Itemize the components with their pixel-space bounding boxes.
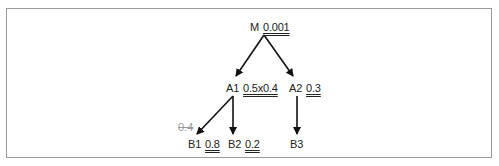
node-m: M0.001: [250, 21, 290, 33]
node-value: 0.8: [205, 138, 220, 150]
node-name: M: [250, 21, 259, 33]
node-b3: B3: [290, 138, 303, 150]
edge-a1-b1: [197, 96, 233, 134]
node-name: B3: [290, 138, 303, 150]
node-value: 0.2: [245, 138, 260, 150]
node-value: 0.3: [306, 82, 321, 94]
node-b1: B10.8: [188, 138, 220, 150]
node-value: 0.001: [263, 21, 290, 33]
edge-m-a1: [236, 35, 264, 76]
node-name: A2: [289, 82, 302, 94]
node-name: A1: [226, 82, 239, 94]
edge-m-a2: [264, 35, 293, 76]
struck-edge-label: 0.4: [178, 121, 193, 133]
node-b2: B20.2: [228, 138, 260, 150]
node-a2: A20.3: [289, 82, 321, 94]
node-name: B2: [228, 138, 241, 150]
node-name: B1: [188, 138, 201, 150]
node-value: 0.5x0.4: [243, 82, 278, 94]
node-a1: A10.5x0.4: [226, 82, 278, 94]
